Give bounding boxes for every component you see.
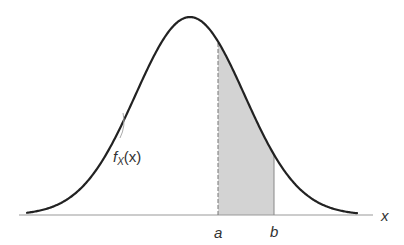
curve-label-subscript: X [117, 156, 124, 167]
tick-label-b: b [270, 224, 278, 239]
x-axis-label: x [381, 208, 389, 223]
curve-label-arg: (x) [124, 148, 142, 165]
shaded-probability-area [218, 41, 274, 215]
density-figure: fX(x) a b x [0, 0, 404, 245]
curve-label: fX(x) [113, 149, 141, 167]
tick-label-a: a [214, 225, 222, 240]
density-plot [0, 0, 404, 245]
density-curve [27, 17, 357, 213]
